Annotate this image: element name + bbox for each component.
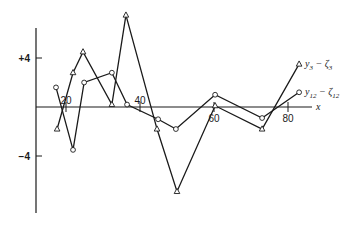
circle-marker [82, 80, 87, 85]
y-tick-label: −4 [19, 151, 31, 162]
circle-marker [125, 102, 130, 107]
triangle-marker [154, 126, 160, 131]
series-line-y3 [57, 15, 299, 191]
series-group [54, 12, 302, 194]
circle-marker [213, 92, 218, 97]
circle-marker [54, 85, 59, 90]
line-chart: x20406080+4−4 y3 − ζ3y12 − ζ12 [0, 0, 358, 228]
x-axis-label: x [315, 101, 321, 112]
triangle-marker [70, 70, 76, 75]
circle-marker [71, 147, 76, 152]
circle-marker [260, 116, 265, 121]
series-label-y3: y3 − ζ3 [304, 58, 333, 72]
triangle-marker [174, 188, 180, 193]
triangle-marker [54, 126, 60, 131]
circle-marker [297, 90, 302, 95]
triangle-marker [123, 12, 129, 17]
triangle-marker [80, 49, 86, 54]
labels-group: y3 − ζ3y12 − ζ12 [304, 58, 340, 100]
x-tick-label: 80 [282, 113, 294, 124]
series-line-y12 [56, 73, 299, 150]
triangle-marker [296, 61, 302, 66]
y-tick-label: +4 [19, 53, 31, 64]
x-tick-label: 40 [134, 95, 146, 106]
circle-marker [109, 70, 114, 75]
circle-marker [173, 127, 178, 132]
axes: x20406080+4−4 [19, 28, 321, 213]
x-tick-label: 60 [208, 113, 220, 124]
triangle-marker [212, 103, 218, 108]
series-label-y12: y12 − ζ12 [304, 86, 340, 100]
circle-marker [156, 117, 161, 122]
